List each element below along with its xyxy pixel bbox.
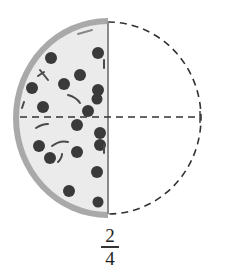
fraction-denominator: 4 xyxy=(105,248,115,269)
empty-half-outline xyxy=(108,22,201,214)
fraction-pizza-diagram xyxy=(0,0,230,230)
pizza-half xyxy=(13,18,108,218)
fraction-label: 2 4 xyxy=(98,226,122,268)
fraction-numerator: 2 xyxy=(105,225,115,246)
